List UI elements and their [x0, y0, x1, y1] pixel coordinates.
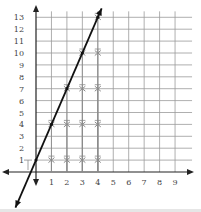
svg-text:9: 9 [173, 178, 178, 187]
svg-text:6: 6 [126, 178, 131, 187]
svg-text:1: 1 [49, 178, 54, 187]
svg-text:3: 3 [80, 178, 85, 187]
svg-text:11: 11 [14, 37, 24, 46]
svg-text:2: 2 [64, 178, 69, 187]
svg-text:3: 3 [19, 132, 24, 141]
svg-text:4: 4 [19, 120, 24, 129]
svg-text:9: 9 [19, 61, 24, 70]
svg-text:12: 12 [14, 25, 24, 34]
coordinate-plane-chart: 12345678912345678910111213 [0, 0, 201, 212]
bottom-divider [0, 209, 201, 212]
svg-text:2: 2 [19, 144, 24, 153]
svg-text:13: 13 [14, 13, 24, 22]
grid-lines [36, 11, 192, 172]
svg-text:5: 5 [111, 178, 116, 187]
svg-text:1: 1 [19, 156, 24, 165]
svg-text:7: 7 [19, 85, 24, 94]
svg-text:5: 5 [19, 109, 24, 118]
svg-text:6: 6 [19, 97, 24, 106]
svg-text:4: 4 [95, 178, 100, 187]
line-y-equals-3x-plus-1 [15, 8, 101, 207]
svg-text:8: 8 [19, 73, 24, 82]
tick-labels: 12345678912345678910111213 [14, 13, 178, 187]
svg-text:8: 8 [157, 178, 162, 187]
svg-text:7: 7 [142, 178, 147, 187]
svg-text:10: 10 [14, 49, 24, 58]
